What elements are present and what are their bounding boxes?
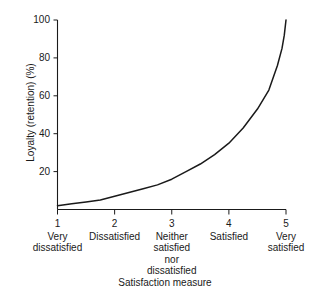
x-axis-category-line: dissatisfied: [22, 242, 94, 254]
x-axis-category-line: satisfied: [136, 242, 208, 254]
x-axis-tick-label: 5: [261, 218, 311, 229]
x-axis-category-label: Verysatisfied: [250, 231, 322, 254]
x-axis-tick-label: 3: [147, 218, 197, 229]
x-axis-tick-label: 4: [204, 218, 254, 229]
x-axis-category-line: dissatisfied: [136, 265, 208, 277]
x-axis-category-line: satisfied: [250, 242, 322, 254]
x-axis-title: Satisfaction measure: [40, 277, 290, 288]
x-axis-category-line: Very: [250, 231, 322, 243]
chart-series-group: [58, 20, 287, 206]
chart-axes: [58, 20, 287, 210]
x-axis-tick-label: 2: [90, 218, 140, 229]
y-axis-ticks: [54, 20, 58, 172]
y-axis-title: Loyalty (retention) (%): [25, 28, 36, 198]
x-axis-category-line: nor: [136, 254, 208, 266]
y-axis-tick-label: 100: [18, 15, 50, 25]
loyalty-curve: [58, 20, 287, 206]
chart-figure: 20406080100 12345 VerydissatisfiedDissat…: [0, 0, 322, 300]
x-axis-tick-label: 1: [33, 218, 83, 229]
x-axis-ticks: [58, 210, 287, 215]
